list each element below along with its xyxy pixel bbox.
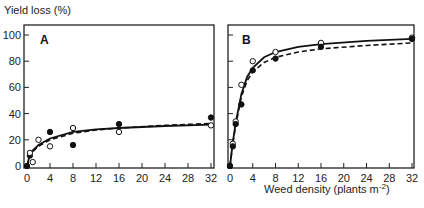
filled-data-point — [230, 144, 235, 149]
open-data-point — [30, 159, 35, 164]
y-tick-label: 0 — [15, 160, 21, 172]
open-data-point — [208, 123, 213, 128]
x-tick-label: 16 — [113, 172, 125, 184]
y-tick-label: 100 — [3, 29, 21, 41]
y-tick-label: 20 — [9, 134, 21, 146]
x-tick-label: 4 — [250, 172, 256, 184]
x-tick-label: 0 — [227, 172, 233, 184]
panel-letter: B — [242, 33, 251, 47]
filled-data-point — [116, 121, 121, 126]
x-tick-label: 4 — [47, 172, 53, 184]
filled-data-point — [409, 36, 414, 41]
x-tick-label: 0 — [24, 172, 30, 184]
open-data-point — [250, 59, 255, 64]
filled-data-point — [250, 68, 255, 73]
filled-data-point — [318, 44, 323, 49]
x-tick-label: 32 — [205, 172, 217, 184]
x-tick-label: 32 — [406, 172, 418, 184]
filled-data-point — [47, 129, 52, 134]
filled-data-point — [233, 121, 238, 126]
fit-curve-solid — [230, 39, 412, 166]
panel-letter: A — [40, 33, 49, 47]
open-data-point — [70, 125, 75, 130]
y-tick-label: 80 — [9, 55, 21, 67]
y-tick-label: 40 — [9, 108, 21, 120]
open-data-point — [47, 144, 52, 149]
yield-loss-chart: Yield loss (%) A020406080100048121620242… — [0, 0, 424, 208]
filled-data-point — [273, 56, 278, 61]
open-data-point — [27, 150, 32, 155]
open-data-point — [239, 82, 244, 87]
filled-data-point — [208, 115, 213, 120]
x-tick-label: 12 — [90, 172, 102, 184]
x-axis-label: Weed density (plants m-2) — [264, 182, 390, 195]
filled-data-point — [227, 163, 232, 168]
panel-a: A020406080100048121620242832 — [3, 25, 217, 184]
x-tick-label: 20 — [136, 172, 148, 184]
y-axis-label: Yield loss (%) — [4, 4, 71, 16]
filled-data-point — [24, 163, 29, 168]
open-data-point — [36, 137, 41, 142]
y-tick-label: 60 — [9, 81, 21, 93]
x-tick-label: 28 — [182, 172, 194, 184]
open-data-point — [273, 49, 278, 54]
x-tick-label: 24 — [159, 172, 171, 184]
filled-data-point — [239, 102, 244, 107]
x-tick-label: 8 — [70, 172, 76, 184]
panel-b: B048121620242832 — [227, 25, 418, 184]
fit-curve-dashed — [230, 43, 412, 166]
open-data-point — [116, 129, 121, 134]
filled-data-point — [70, 142, 75, 147]
